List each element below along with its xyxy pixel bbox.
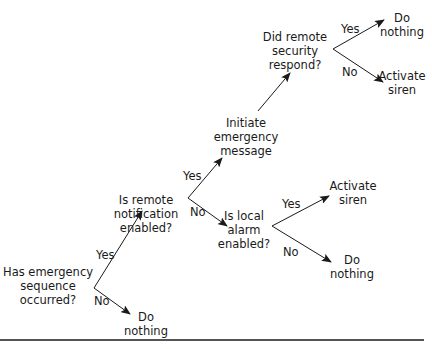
edge-initiate-to-q3 [258, 73, 290, 111]
node-q4-no-do-nothing: Do nothing [330, 253, 374, 281]
label-q1-no: No [94, 294, 110, 308]
node-q4-yes-activate-siren: Activate siren [329, 179, 376, 207]
node-q3-yes-do-nothing: Do nothing [380, 11, 424, 39]
node-initiate-emergency-message: Initiate emergency message [214, 116, 279, 158]
node-did-remote-security-respond: Did remote security respond? [263, 30, 327, 72]
node-is-local-alarm-enabled: Is local alarm enabled? [218, 209, 270, 251]
label-q3-yes: Yes [341, 22, 360, 36]
node-has-emergency-sequence-occurred: Has emergency sequence occurred? [3, 265, 93, 307]
label-q1-yes: Yes [96, 248, 115, 262]
node-q1-no-do-nothing: Do nothing [124, 310, 168, 338]
edge-q3-no [333, 49, 383, 82]
label-q2-yes: Yes [183, 169, 202, 183]
label-q4-yes: Yes [282, 197, 301, 211]
decision-tree-diagram: Has emergency sequence occurred? Do noth… [0, 0, 432, 349]
label-q2-no: No [190, 205, 206, 219]
node-q3-no-activate-siren: Activate siren [378, 69, 425, 97]
label-q3-no: No [342, 65, 358, 79]
label-q4-no: No [283, 245, 299, 259]
node-is-remote-notification-enabled: Is remote notification enabled? [114, 193, 179, 235]
bottom-divider [0, 339, 424, 341]
edge-q4-no [272, 226, 331, 262]
